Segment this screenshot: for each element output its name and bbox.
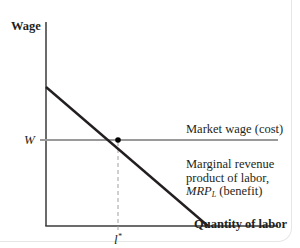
mrp-label-line3: MRPL (benefit) xyxy=(186,185,274,199)
market-wage-label: Market wage (cost) xyxy=(186,123,283,136)
mrp-symbol: MRP xyxy=(186,184,212,198)
mrp-label-line1: Marginal revenue xyxy=(186,158,274,172)
wage-tick-label: W xyxy=(24,133,35,146)
equilibrium-point xyxy=(115,137,121,143)
labor-tick-star: * xyxy=(118,232,122,241)
mrp-benefit: (benefit) xyxy=(216,184,262,198)
mrp-label: Marginal revenue product of labor, MRPL … xyxy=(186,158,274,199)
mrp-label-line2: product of labor, xyxy=(186,172,274,186)
y-axis-label: Wage xyxy=(11,20,41,33)
mrp-line xyxy=(46,87,208,226)
x-axis-label: Quantity of labor xyxy=(194,218,287,231)
labor-tick-label: l* xyxy=(114,230,122,246)
